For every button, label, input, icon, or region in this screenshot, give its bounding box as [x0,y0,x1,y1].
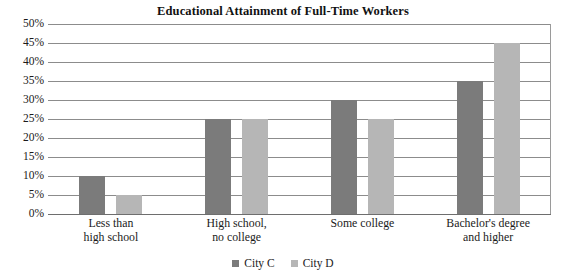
y-axis-tick-label: 30% [0,94,44,106]
y-axis-tick-label: 0% [0,208,44,220]
bar-city-d [242,119,268,214]
bar-city-c [457,81,483,214]
y-axis-tick-label: 40% [0,56,44,68]
plot-area [48,24,551,214]
legend-item[interactable]: City D [291,258,334,270]
legend-swatch-icon [291,260,298,267]
y-axis-labels: 50%45%40%35%30%25%20%15%10%5%0% [0,0,44,279]
y-axis-tick-label: 25% [0,113,44,125]
x-axis-category-label: Some college [300,216,426,230]
chart-legend: City CCity D [0,258,566,270]
x-axis-category-label-line: High school, [174,216,300,230]
x-axis-line [48,214,551,215]
legend-label: City D [303,258,334,270]
legend-item[interactable]: City C [232,258,274,270]
y-axis-tick-label: 10% [0,170,44,182]
gridline [48,62,551,63]
x-axis-category-label-line: and higher [425,230,551,244]
x-axis-category-label: Bachelor's degreeand higher [425,216,551,245]
bar-city-c [79,176,105,214]
x-axis-category-label-line: Some college [300,216,426,230]
chart-title: Educational Attainment of Full-Time Work… [0,4,566,19]
bar-city-d [494,43,520,214]
y-axis-tick-label: 45% [0,37,44,49]
bar-city-c [331,100,357,214]
bar-city-c [205,119,231,214]
x-axis-category-label-line: no college [174,230,300,244]
y-axis-tick-label: 20% [0,132,44,144]
x-axis-category-label-line: Bachelor's degree [425,216,551,230]
x-axis-category-label: Less thanhigh school [48,216,174,245]
x-axis-category-label-line: Less than [48,216,174,230]
y-axis-tick-label: 5% [0,189,44,201]
x-axis-labels: Less thanhigh schoolHigh school,no colle… [48,216,551,256]
x-axis-category-label-line: high school [48,230,174,244]
legend-label: City C [244,258,274,270]
gridline [48,24,551,25]
legend-swatch-icon [232,260,239,267]
chart-container: Educational Attainment of Full-Time Work… [0,0,566,279]
y-axis-tick-label: 50% [0,18,44,30]
bar-city-d [116,195,142,214]
bar-city-d [368,119,394,214]
y-axis-tick-label: 35% [0,75,44,87]
gridline [48,43,551,44]
x-axis-category-label: High school,no college [174,216,300,245]
y-axis-tick-label: 15% [0,151,44,163]
plot-right-border [550,24,551,214]
